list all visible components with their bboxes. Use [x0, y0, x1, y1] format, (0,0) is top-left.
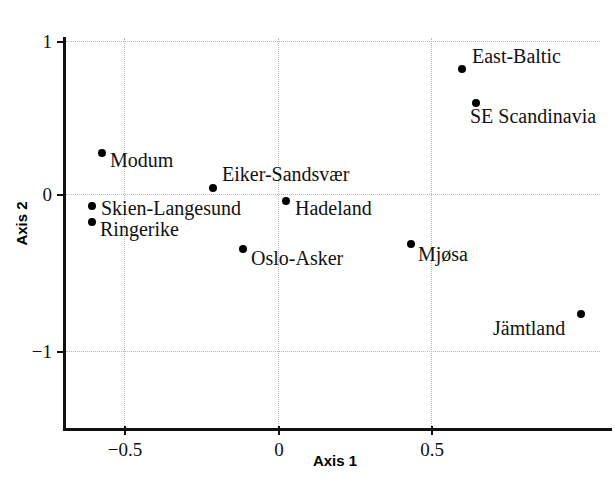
y-axis-line — [63, 37, 66, 431]
gridline-y-neg1 — [66, 351, 600, 353]
x-tick-05 — [431, 426, 433, 435]
point-label-oslo-asker: Oslo-Asker — [251, 248, 343, 268]
point-label-se-scandinavia: SE Scandinavia — [470, 106, 596, 126]
x-tick-0 — [278, 426, 280, 435]
data-point-oslo-asker — [239, 245, 247, 253]
data-point-eiker-sandsvaer — [209, 184, 217, 192]
gridline-x-0 — [278, 38, 280, 428]
point-label-hadeland: Hadeland — [295, 198, 372, 218]
point-label-mjosa: Mjøsa — [418, 244, 468, 264]
x-ticklabel-neg05: −0.5 — [95, 440, 155, 459]
y-ticklabel-neg1: −1 — [6, 342, 52, 361]
gridline-y-1 — [66, 41, 600, 43]
x-ticklabel-05: 0.5 — [402, 440, 462, 459]
gridline-y-0 — [66, 194, 600, 196]
data-point-skien-langesund — [88, 202, 96, 210]
scatter-plot-figure: 1 0 −1 −0.5 0 0.5 Axis 1 Axis 2 East-Bal… — [0, 0, 615, 483]
y-tick-1 — [57, 41, 66, 43]
point-label-eiker-sandsvaer: Eiker-Sandsvær — [222, 164, 349, 184]
y-axis-title: Axis 2 — [13, 179, 30, 269]
point-label-modum: Modum — [110, 150, 173, 170]
data-point-hadeland — [282, 197, 290, 205]
point-label-skien-langesund: Skien-Langesund — [101, 198, 241, 218]
x-axis-title: Axis 1 — [275, 452, 395, 469]
point-label-ringerike: Ringerike — [100, 219, 179, 239]
data-point-mjosa — [407, 240, 415, 248]
point-label-jamtland: Jämtland — [493, 318, 565, 338]
data-point-jamtland — [577, 310, 585, 318]
x-axis-line — [63, 428, 612, 431]
gridline-x-05 — [431, 38, 433, 428]
y-tick-neg1 — [57, 351, 66, 353]
data-point-modum — [98, 149, 106, 157]
x-tick-neg05 — [124, 426, 126, 435]
data-point-east-baltic — [458, 65, 466, 73]
data-point-ringerike — [88, 218, 96, 226]
y-ticklabel-1: 1 — [6, 32, 52, 51]
point-label-east-baltic: East-Baltic — [472, 46, 561, 66]
y-tick-0 — [57, 194, 66, 196]
